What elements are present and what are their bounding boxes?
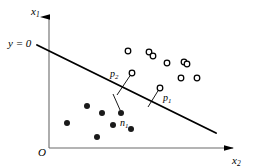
data-point-filled-n1: [118, 110, 124, 116]
diagram-svg: [0, 0, 253, 168]
data-point-open-p1: [157, 85, 163, 91]
data-point-open: [125, 48, 131, 54]
data-point-filled: [94, 134, 100, 140]
connector-n1: [113, 94, 120, 111]
origin-label: O: [38, 147, 46, 158]
data-point-filled: [99, 110, 105, 116]
data-point-filled: [84, 103, 90, 109]
data-point-open-p2: [129, 70, 135, 76]
data-point-filled: [110, 122, 116, 128]
data-point-open: [164, 60, 170, 66]
figure-canvas: x1 x2 O y = 0 p1 p2 n1: [0, 0, 253, 168]
axis-label-x1: x1: [31, 6, 40, 19]
data-point-filled: [128, 126, 134, 132]
point-label-p2: p2: [110, 69, 118, 81]
boundary-label-y0: y = 0: [8, 38, 31, 49]
data-point-open: [184, 61, 190, 67]
open-circle-group: [125, 48, 200, 91]
axis-label-x2: x2: [232, 155, 241, 168]
point-label-p1: p1: [163, 93, 171, 105]
data-point-open: [194, 75, 200, 81]
point-label-n1: n1: [120, 118, 128, 130]
data-point-open: [178, 75, 184, 81]
data-point-open: [150, 53, 156, 59]
data-point-filled: [64, 120, 70, 126]
